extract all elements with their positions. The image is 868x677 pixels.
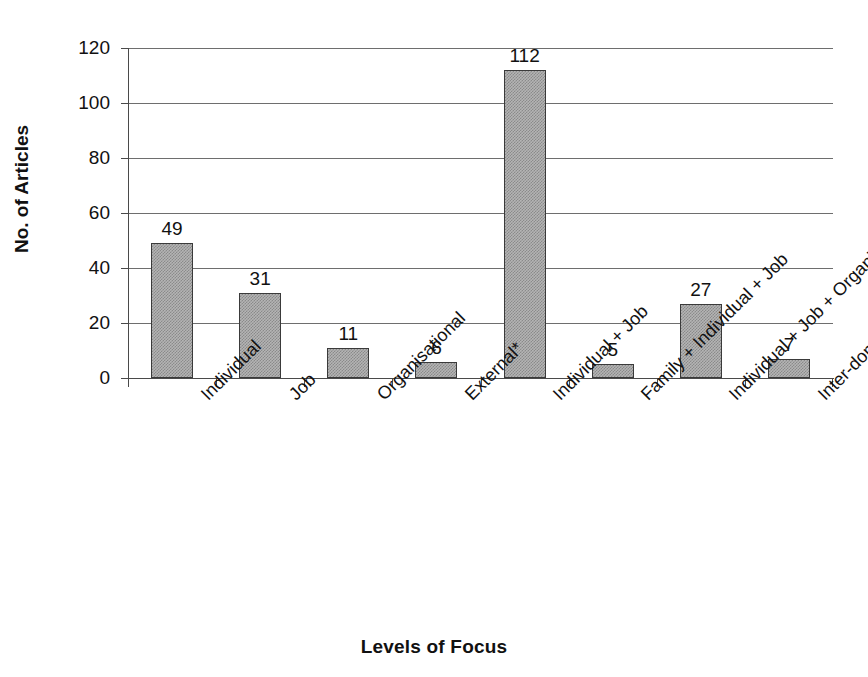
y-axis-tick-mark <box>121 378 128 379</box>
y-axis-tick-mark <box>121 48 128 49</box>
x-axis-category-labels: IndividualJobOrganisationalExternal*Indi… <box>128 390 834 620</box>
y-axis-tick-label: 100 <box>78 92 110 114</box>
y-axis-tick-label: 60 <box>89 202 110 224</box>
bar <box>504 70 546 378</box>
bar-slot: 31 <box>216 48 304 378</box>
y-axis-tick-label: 40 <box>89 257 110 279</box>
y-axis-tick-label: 20 <box>89 312 110 334</box>
bar-slot: 49 <box>128 48 216 378</box>
y-axis-tick-mark <box>121 158 128 159</box>
y-axis-ticks: 020406080100120 <box>0 0 128 400</box>
bar-value-label: 27 <box>690 279 711 301</box>
bar <box>151 243 193 378</box>
y-axis-tick-label: 80 <box>89 147 110 169</box>
bar-value-label: 112 <box>509 45 539 67</box>
x-axis-title: Levels of Focus <box>0 636 868 658</box>
bar-chart: No. of Articles 020406080100120 49311161… <box>0 0 868 677</box>
bar <box>327 348 369 378</box>
y-axis-tick-mark <box>121 323 128 324</box>
x-axis-tick-mark <box>128 379 129 387</box>
y-axis-tick-mark <box>121 268 128 269</box>
y-axis-tick-mark <box>121 103 128 104</box>
bar-value-label: 49 <box>161 218 182 240</box>
y-axis-tick-label: 120 <box>78 37 110 59</box>
y-axis-tick-label: 0 <box>99 367 110 389</box>
y-axis-tick-mark <box>121 213 128 214</box>
bar-slot: 112 <box>481 48 569 378</box>
bar-value-label: 31 <box>250 268 271 290</box>
bar-slot: 11 <box>304 48 392 378</box>
bar-value-label: 11 <box>338 323 358 345</box>
